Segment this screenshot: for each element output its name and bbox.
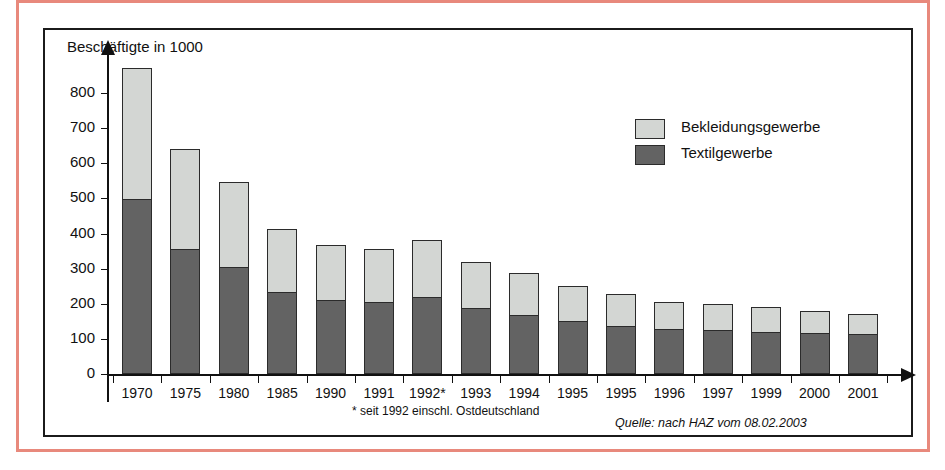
x-axis-arrow xyxy=(901,368,916,382)
y-axis-tick-label: 0 xyxy=(51,364,95,381)
bar-segment-textilgewerbe xyxy=(849,334,877,373)
bar-segment-textilgewerbe xyxy=(801,333,829,373)
bar-1999 xyxy=(751,307,781,374)
x-axis-tick xyxy=(742,376,743,383)
bar-segment-textilgewerbe xyxy=(268,292,296,373)
y-axis-tick-label: 500 xyxy=(51,188,95,205)
bar-1996 xyxy=(654,302,684,374)
x-axis-label: 2000 xyxy=(791,385,839,401)
y-axis-tick xyxy=(101,339,109,340)
bar-2000 xyxy=(800,311,830,374)
x-axis-label: 1999 xyxy=(742,385,790,401)
x-axis-label: 1980 xyxy=(210,385,258,401)
x-axis-tick xyxy=(210,376,211,383)
bar-segment-textilgewerbe xyxy=(559,321,587,373)
y-axis-tick xyxy=(101,93,109,94)
bar-2001 xyxy=(848,314,878,374)
x-axis-tick xyxy=(403,376,404,383)
bar-segment-textilgewerbe xyxy=(123,199,151,373)
bar-segment-textilgewerbe xyxy=(365,302,393,373)
bar-1993 xyxy=(461,262,491,374)
bar-1994 xyxy=(509,273,539,374)
x-axis-tick xyxy=(839,376,840,383)
x-axis-label: 1995 xyxy=(597,385,645,401)
bar-1985 xyxy=(267,229,297,374)
bar-segment-textilgewerbe xyxy=(462,308,490,373)
bar-1997 xyxy=(703,304,733,374)
bar-segment-textilgewerbe xyxy=(607,326,635,373)
y-axis-tick xyxy=(101,304,109,305)
x-axis-line xyxy=(107,374,903,376)
x-axis-label: 1991 xyxy=(355,385,403,401)
y-axis-tick xyxy=(101,163,109,164)
x-axis-tick xyxy=(113,376,114,383)
x-axis-label: 2001 xyxy=(839,385,887,401)
x-axis-tick xyxy=(694,376,695,383)
x-axis-label: 1994 xyxy=(500,385,548,401)
bar-segment-textilgewerbe xyxy=(655,329,683,373)
x-axis-tick xyxy=(355,376,356,383)
legend-swatch-bekleidungsgewerbe xyxy=(635,119,665,139)
bar-1992star xyxy=(412,240,442,374)
y-axis-tick xyxy=(101,374,109,375)
x-axis-label: 1996 xyxy=(645,385,693,401)
legend-label-textilgewerbe: Textilgewerbe xyxy=(681,144,773,161)
x-axis-label: 1995 xyxy=(549,385,597,401)
x-axis-label: 1992* xyxy=(403,385,451,401)
chart-source: Quelle: nach HAZ vom 08.02.2003 xyxy=(615,416,807,430)
x-axis-tick xyxy=(887,376,888,383)
bar-segment-textilgewerbe xyxy=(413,297,441,373)
x-axis-tick xyxy=(791,376,792,383)
y-axis-tick-label: 800 xyxy=(51,83,95,100)
x-axis-label: 1985 xyxy=(258,385,306,401)
x-axis-tick xyxy=(500,376,501,383)
y-axis-tick-label: 700 xyxy=(51,118,95,135)
bar-segment-textilgewerbe xyxy=(317,300,345,373)
bar-1995 xyxy=(558,286,588,374)
y-axis-tick-label: 100 xyxy=(51,329,95,346)
bar-segment-textilgewerbe xyxy=(752,332,780,373)
bar-1980 xyxy=(219,182,249,374)
x-axis-tick xyxy=(307,376,308,383)
x-axis-tick xyxy=(452,376,453,383)
x-axis-tick xyxy=(258,376,259,383)
legend-label-bekleidungsgewerbe: Bekleidungsgewerbe xyxy=(681,118,820,135)
chart-footnote: * seit 1992 einschl. Ostdeutschland xyxy=(352,404,539,418)
bar-segment-textilgewerbe xyxy=(220,267,248,373)
bar-segment-textilgewerbe xyxy=(510,315,538,373)
x-axis-tick xyxy=(549,376,550,383)
y-axis-tick xyxy=(101,269,109,270)
y-axis-tick-label: 300 xyxy=(51,259,95,276)
x-axis-label: 1975 xyxy=(161,385,209,401)
x-axis-tick xyxy=(597,376,598,383)
x-axis-label: 1993 xyxy=(452,385,500,401)
legend-swatch-textilgewerbe xyxy=(635,145,665,165)
y-axis-tick-label: 600 xyxy=(51,153,95,170)
x-axis-label: 1990 xyxy=(307,385,355,401)
y-axis-tick-label: 200 xyxy=(51,294,95,311)
y-axis-title: Beschäftigte in 1000 xyxy=(67,38,203,55)
bar-1975 xyxy=(170,149,200,374)
x-axis-tick xyxy=(645,376,646,383)
bar-1995 xyxy=(606,294,636,374)
x-axis-tick xyxy=(161,376,162,383)
bar-segment-textilgewerbe xyxy=(171,249,199,373)
y-axis-tick xyxy=(101,198,109,199)
chart-plot-area: Beschäftigte in 1000 0100200300400500600… xyxy=(45,30,915,439)
x-axis-label: 1970 xyxy=(113,385,161,401)
chart-frame: Beschäftigte in 1000 0100200300400500600… xyxy=(43,28,913,437)
y-axis-arrow xyxy=(101,40,115,55)
y-axis-tick-label: 400 xyxy=(51,224,95,241)
x-axis-label: 1997 xyxy=(694,385,742,401)
bar-1970 xyxy=(122,68,152,374)
y-axis-tick xyxy=(101,128,109,129)
bar-1990 xyxy=(316,245,346,374)
y-axis-line xyxy=(107,54,109,402)
bar-segment-textilgewerbe xyxy=(704,330,732,373)
y-axis-tick xyxy=(101,234,109,235)
bar-1991 xyxy=(364,249,394,374)
